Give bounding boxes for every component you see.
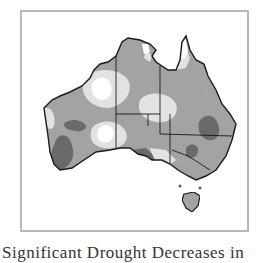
australia-map [0,0,267,240]
tasmania [182,192,200,212]
figure-caption: Significant Drought Decreases in [2,243,267,263]
